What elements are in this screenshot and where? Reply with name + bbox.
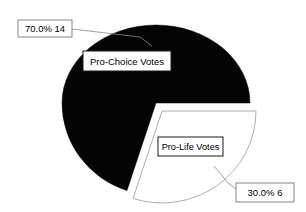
callout-pro-life-text: 30.0% 6	[248, 187, 283, 198]
pie-chart: 70.0% 14 Pro-Choice Votes Pro-Life Votes…	[0, 0, 306, 212]
callout-pro-choice-text: 70.0% 14	[25, 23, 65, 34]
pie-chart-container: 70.0% 14 Pro-Choice Votes Pro-Life Votes…	[0, 0, 306, 212]
callout-pro-choice: 70.0% 14	[18, 20, 72, 37]
label-pro-life: Pro-Life Votes	[158, 137, 223, 156]
label-pro-life-text: Pro-Life Votes	[162, 142, 220, 152]
label-pro-choice: Pro-Choice Votes	[83, 51, 171, 71]
callout-pro-life: 30.0% 6	[236, 183, 294, 202]
label-pro-choice-text: Pro-Choice Votes	[90, 56, 164, 67]
